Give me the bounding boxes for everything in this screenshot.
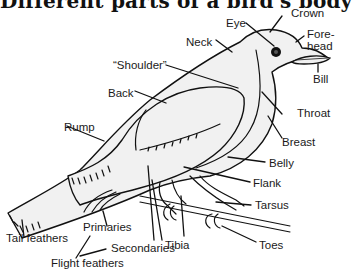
label-breast: Breast: [282, 136, 315, 148]
label-toes: Toes: [259, 239, 283, 251]
label-flight-feathers: Flight feathers: [51, 257, 124, 269]
label-tarsus: Tarsus: [255, 199, 289, 211]
label-forehead-1: Fore-: [307, 28, 334, 40]
label-belly: Belly: [269, 157, 294, 169]
label-throat: Throat: [297, 107, 330, 119]
label-eye: Eye: [226, 17, 246, 29]
label-forehead-2: head: [307, 40, 333, 52]
label-crown: Crown: [291, 7, 324, 19]
label-shoulder: “Shoulder”: [113, 59, 167, 71]
label-back: Back: [108, 87, 134, 99]
label-tibia: Tibia: [165, 239, 190, 251]
label-tail-feathers: Tail feathers: [6, 232, 68, 244]
label-flank: Flank: [253, 177, 281, 189]
label-rump: Rump: [64, 121, 95, 133]
label-primaries: Primaries: [83, 221, 132, 233]
label-neck: Neck: [186, 36, 212, 48]
label-bill: Bill: [313, 73, 328, 85]
